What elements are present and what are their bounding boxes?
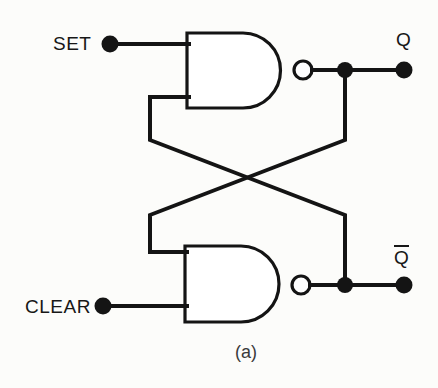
nand-gate-top-body [187, 33, 281, 108]
junction-dot-qbar [337, 277, 353, 293]
terminal-dot-set[interactable] [102, 36, 119, 53]
label-q-output: Q [396, 29, 411, 51]
figure-caption: (a) [206, 342, 286, 363]
junction-dot-q [337, 62, 353, 78]
circuit-svg [0, 0, 438, 388]
nand-gate-top-inversion-bubble [294, 61, 312, 79]
label-clear: CLEAR [25, 296, 91, 318]
terminal-dot-clear[interactable] [95, 298, 112, 315]
label-qbar-text: Q [394, 245, 409, 269]
terminal-dot-q[interactable] [396, 62, 413, 79]
terminal-dot-qbar[interactable] [396, 277, 413, 294]
nand-gate-bottom-body [185, 246, 279, 322]
label-set: SET [53, 33, 91, 55]
circuit-diagram-figure: SET CLEAR Q Q (a) [0, 0, 438, 388]
nand-gate-bottom-inversion-bubble [292, 276, 310, 294]
label-qbar-output: Q [394, 245, 409, 269]
